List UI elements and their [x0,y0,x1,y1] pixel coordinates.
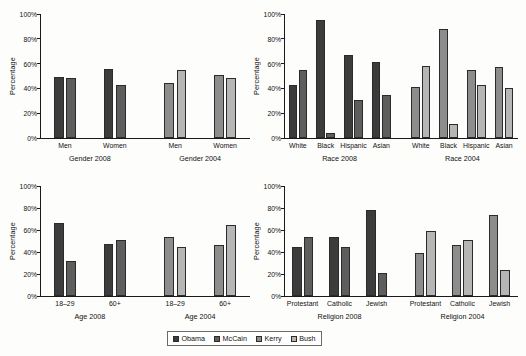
bar [66,261,76,296]
y-tick-label: 60% [23,60,37,67]
x-group-label: Religion 2004 [440,312,484,321]
x-group-label: Age 2004 [185,312,216,321]
y-axis-ticks: 0%20%40%60%80%100% [14,186,40,296]
x-group-label: Gender 2004 [179,154,221,163]
x-category-label: Hispanic [463,142,489,149]
x-category-label: Protestant [410,300,441,307]
bar [116,85,126,138]
y-axis-ticks: 0%20%40%60%80%100% [258,186,284,296]
x-category-label: White [289,142,307,149]
x-axis-line [284,138,518,139]
y-tick-label: 80% [267,35,281,42]
bar [415,253,425,296]
bar [467,70,476,138]
bar [366,210,376,296]
y-tick-label: 60% [267,227,281,234]
y-tick-label: 0% [271,293,281,300]
y-tick-label: 60% [23,227,37,234]
bars-layer [284,186,518,296]
bar [326,133,335,138]
x-group-label: Religion 2008 [318,312,362,321]
plot-area-age: Percentage0%20%40%60%80%100%18–2960+Age … [6,178,254,330]
bar [463,240,473,296]
bar [289,85,298,138]
bar [452,245,462,296]
legend-swatch-icon [256,336,262,342]
legend-label: Bush [299,334,315,343]
x-category-label: Men [58,142,71,149]
bar [164,237,174,296]
legend-item: Bush [291,334,316,343]
chart-legend: ObamaMcCainKerryBush [167,331,322,346]
x-category-label: Jewish [366,300,387,307]
bar [104,244,114,296]
y-tick-label: 100% [20,11,37,18]
y-tick-label: 100% [264,11,281,18]
bars-layer [40,186,250,296]
x-group-label: Race 2004 [445,154,480,163]
chart-panel-race: Percentage0%20%40%60%80%100%WhiteBlackHi… [250,6,522,172]
x-group-label: Race 2008 [322,154,357,163]
legend-label: Kerry [264,334,281,343]
y-axis-ticks: 0%20%40%60%80%100% [258,14,284,138]
y-axis-ticks: 0%20%40%60%80%100% [14,14,40,138]
bar [378,273,388,296]
legend-item: Obama [173,334,205,343]
y-tick-label: 60% [267,60,281,67]
bar [489,215,499,296]
bar [495,67,504,138]
x-category-label: Asian [373,142,390,149]
chart-panel-age: Percentage0%20%40%60%80%100%18–2960+Age … [6,178,254,330]
bar [226,78,236,138]
x-category-label: 18–29 [166,300,185,307]
bar [214,75,224,138]
x-group-label: Gender 2008 [69,154,111,163]
bar [382,95,391,138]
chart-panel-religion: Percentage0%20%40%60%80%100%ProtestantCa… [250,178,522,330]
legend-swatch-icon [214,336,220,342]
y-tick-label: 0% [271,135,281,142]
bar [226,225,236,297]
bar [477,85,486,138]
legend-label: McCain [223,334,247,343]
x-category-label: 60+ [219,300,231,307]
y-tick-label: 0% [27,135,37,142]
x-category-label: Catholic [450,300,475,307]
bar [341,247,351,297]
x-category-label: Women [103,142,127,149]
x-axis-line [284,296,518,297]
plot-area-religion: Percentage0%20%40%60%80%100%ProtestantCa… [250,178,522,330]
bar [411,87,420,138]
legend-item: McCain [214,334,247,343]
bar [344,55,353,138]
y-tick-label: 20% [23,271,37,278]
y-tick-label: 20% [23,110,37,117]
y-tick-label: 20% [267,271,281,278]
bar [304,237,314,296]
bar [449,124,458,138]
y-tick-label: 0% [27,293,37,300]
x-category-label: White [412,142,430,149]
y-tick-label: 40% [267,85,281,92]
x-group-label: Age 2008 [74,312,105,321]
bar [54,223,64,296]
y-tick-label: 80% [267,205,281,212]
bar [54,77,64,138]
x-category-label: Catholic [327,300,352,307]
x-category-label: Hispanic [340,142,366,149]
bar [316,20,325,138]
bar [177,247,187,297]
bar [299,70,308,138]
bar [372,62,381,138]
bar [329,237,339,296]
legend-label: Obama [182,334,206,343]
bar [214,245,224,296]
bar [177,70,187,138]
figure-grid: Percentage0%20%40%60%80%100%MenWomenGend… [0,0,526,356]
x-category-label: Men [168,142,181,149]
x-category-label: Women [213,142,237,149]
y-tick-label: 80% [23,205,37,212]
legend-swatch-icon [173,336,179,342]
x-category-label: Black [440,142,457,149]
bars-layer [40,14,250,138]
